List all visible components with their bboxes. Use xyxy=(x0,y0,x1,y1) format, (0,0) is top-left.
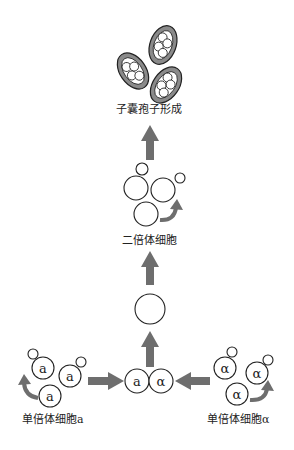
haploid-a-letter: a xyxy=(66,369,74,384)
ascus-left xyxy=(111,47,155,95)
label-diploid: 二倍体细胞 xyxy=(122,231,177,247)
haploid-a-letter: a xyxy=(39,361,47,376)
ascus-top-right xyxy=(144,22,182,68)
diploid-cell xyxy=(124,176,148,200)
arrow-haploid-alpha-to-mating xyxy=(175,372,210,390)
haploid-a-letter: a xyxy=(46,389,54,404)
mating-letter-alpha: α xyxy=(157,374,166,389)
diploid-cell xyxy=(151,178,175,202)
diploid-bud xyxy=(136,163,148,175)
zygote-cell xyxy=(135,294,165,324)
yeast-life-cycle-diagram: a α a a a α α α xyxy=(0,0,294,450)
arrow-diploid-to-ascospore xyxy=(141,125,159,160)
haploid-alpha-letter: α xyxy=(233,387,242,402)
mating-pair: a α xyxy=(125,369,173,393)
arrow-haploid-a-to-mating xyxy=(88,372,124,390)
label-haploid-a: 单倍体细胞a xyxy=(22,410,84,426)
diploid-cell xyxy=(134,202,158,226)
diploid-budding-curved-arrow xyxy=(160,208,176,220)
haploid-a-budding-curved-arrow xyxy=(24,383,38,398)
haploid-alpha-budding-curved-arrow xyxy=(250,389,267,400)
haploid-a-budding-arrowhead xyxy=(18,374,31,385)
label-ascospore-formation: 子囊孢子形成 xyxy=(116,100,182,116)
label-haploid-alpha: 单倍体细胞α xyxy=(207,410,269,426)
haploid-alpha-letter: α xyxy=(221,361,230,376)
arrow-mating-to-zygote xyxy=(141,331,159,367)
diploid-cells xyxy=(124,163,185,226)
diploid-bud xyxy=(175,173,185,183)
arrow-zygote-to-diploid xyxy=(141,251,159,285)
diploid-budding-arrowhead xyxy=(170,199,183,210)
haploid-alpha-letter: α xyxy=(253,366,262,381)
mating-letter-a: a xyxy=(133,374,141,389)
